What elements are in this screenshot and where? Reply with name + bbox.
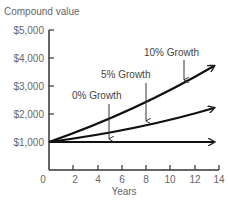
x-axis-label: Years — [111, 186, 136, 197]
y-tick-label: $3,000 — [13, 81, 44, 92]
annotation-10-percent: 10% Growth — [144, 47, 199, 80]
y-tick-label: $1,000 — [13, 137, 44, 148]
y-tick-label: $4,000 — [13, 53, 44, 64]
svg-text:0% Growth: 0% Growth — [72, 90, 121, 101]
x-tick-label: 4 — [95, 174, 101, 185]
x-axis: 0 2 4 6 8 10 12 14 Years — [40, 165, 225, 197]
x-tick-label: 8 — [143, 174, 149, 185]
y-tick-label: $5,000 — [13, 25, 44, 36]
svg-text:10% Growth: 10% Growth — [144, 47, 199, 58]
x-tick-label: 14 — [213, 174, 225, 185]
x-tick-label: 2 — [72, 174, 78, 185]
x-tick-label: 0 — [40, 174, 46, 185]
x-tick-label: 10 — [164, 174, 176, 185]
x-tick-label: 6 — [119, 174, 125, 185]
svg-text:5% Growth: 5% Growth — [101, 69, 150, 80]
series-5-percent-line — [49, 108, 214, 142]
compound-growth-chart: Compound value $5,000 $4,000 $3,000 $2,0… — [0, 0, 228, 204]
chart-title: Compound value — [4, 6, 80, 17]
y-axis: $5,000 $4,000 $3,000 $2,000 $1,000 — [13, 25, 54, 170]
x-tick-label: 12 — [189, 174, 201, 185]
y-tick-label: $2,000 — [13, 109, 44, 120]
